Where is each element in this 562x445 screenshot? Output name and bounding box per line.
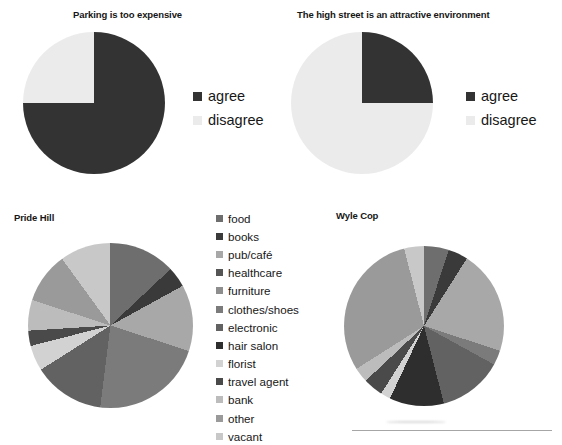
- legend-swatch: [216, 269, 223, 276]
- legend-swatch: [216, 287, 223, 294]
- legend-label: travel agent: [228, 375, 289, 388]
- chart-title-wyle-cop: Wyle Cop: [336, 210, 378, 222]
- legend-item[interactable]: pub/café: [216, 245, 299, 263]
- legend-item[interactable]: healthcare: [216, 264, 299, 282]
- legend-item[interactable]: hair salon: [216, 336, 299, 354]
- legend-swatch: [216, 215, 223, 222]
- legend-swatch: [216, 251, 223, 258]
- legend-item[interactable]: food: [216, 209, 299, 227]
- legend-swatch: [216, 378, 223, 385]
- legend-label: vacant: [228, 430, 262, 443]
- legend-swatch-agree: [193, 92, 202, 101]
- legend-swatch: [216, 433, 223, 440]
- legend-swatch: [216, 342, 223, 349]
- legend-swatch: [216, 396, 223, 403]
- legend-high-street: agree disagree: [466, 84, 537, 132]
- legend-item[interactable]: clothes/shoes: [216, 300, 299, 318]
- chart-title-parking: Parking is too expensive: [73, 9, 182, 21]
- legend-swatch: [216, 360, 223, 367]
- legend-label: food: [228, 212, 251, 225]
- legend-item[interactable]: travel agent: [216, 373, 299, 391]
- legend-categories: foodbookspub/caféhealthcarefurnitureclot…: [216, 209, 299, 445]
- legend-label: clothes/shoes: [228, 303, 299, 316]
- legend-item[interactable]: vacant: [216, 427, 299, 445]
- chart-title-high-street: The high street is an attractive environ…: [297, 9, 490, 21]
- legend-label: furniture: [228, 284, 271, 297]
- legend-parking: agree disagree: [193, 84, 264, 132]
- chart-title-pride-hill: Pride Hill: [14, 212, 54, 224]
- pie-chart-wyle-cop: [344, 246, 504, 406]
- legend-label: books: [228, 230, 259, 243]
- legend-label: other: [228, 412, 254, 425]
- legend-item[interactable]: furniture: [216, 282, 299, 300]
- legend-swatch-disagree: [466, 116, 475, 125]
- legend-item[interactable]: florist: [216, 355, 299, 373]
- legend-label-agree: agree: [481, 88, 518, 104]
- legend-label: hair salon: [228, 339, 278, 352]
- legend-swatch: [216, 415, 223, 422]
- legend-item-disagree[interactable]: disagree: [466, 108, 537, 132]
- legend-item-agree[interactable]: agree: [466, 84, 537, 108]
- legend-item[interactable]: other: [216, 409, 299, 427]
- legend-swatch-agree: [466, 92, 475, 101]
- legend-swatch: [216, 306, 223, 313]
- legend-label-agree: agree: [208, 88, 245, 104]
- legend-swatch: [216, 324, 223, 331]
- legend-label: healthcare: [228, 266, 282, 279]
- pie-chart-parking: [23, 32, 165, 174]
- legend-item[interactable]: books: [216, 227, 299, 245]
- legend-label: electronic: [228, 321, 278, 334]
- legend-label-disagree: disagree: [208, 112, 264, 128]
- legend-swatch-disagree: [193, 116, 202, 125]
- pie-chart-pride-hill: [28, 243, 193, 408]
- pie-chart-high-street: [291, 32, 433, 174]
- legend-label: bank: [228, 393, 253, 406]
- legend-label: florist: [228, 357, 256, 370]
- legend-item[interactable]: bank: [216, 391, 299, 409]
- page-edge-artifact: [386, 421, 446, 423]
- legend-label-disagree: disagree: [481, 112, 537, 128]
- legend-label: pub/café: [228, 248, 272, 261]
- legend-item-disagree[interactable]: disagree: [193, 108, 264, 132]
- legend-item[interactable]: electronic: [216, 318, 299, 336]
- bottom-rule: [352, 430, 552, 431]
- legend-item-agree[interactable]: agree: [193, 84, 264, 108]
- legend-swatch: [216, 233, 223, 240]
